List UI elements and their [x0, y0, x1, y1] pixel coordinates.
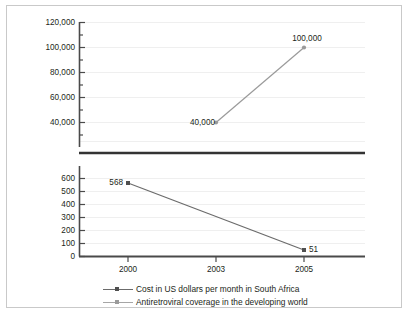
data-point-cost-2005 — [302, 248, 306, 252]
legend-swatch-coverage — [103, 297, 133, 308]
upper-panel-major-ticks — [80, 23, 86, 123]
ytick-label-500: 500 — [7, 187, 75, 196]
legend-swatch-cost — [103, 284, 133, 295]
ytick-label-400: 400 — [7, 200, 75, 209]
series-line-cost — [128, 183, 304, 250]
ytick-label-60000: 60,000 — [7, 93, 75, 102]
xtick-label-2003: 2003 — [192, 265, 240, 274]
figure-caption — [6, 313, 405, 325]
xtick-label-2005: 2005 — [280, 265, 328, 274]
data-point-cost-2000 — [126, 181, 130, 185]
series-line-coverage — [216, 48, 304, 123]
ytick-label-0: 0 — [7, 252, 75, 261]
figure: 120,000 100,000 80,000 60,000 40,000 600… — [0, 0, 411, 325]
ytick-label-600: 600 — [7, 174, 75, 183]
legend-item-coverage[interactable]: Antiretroviral coverage in the developin… — [103, 296, 393, 309]
ytick-label-120000: 120,000 — [7, 18, 75, 27]
data-label-coverage-2005: 100,000 — [284, 34, 330, 43]
data-point-coverage-2005 — [302, 45, 306, 49]
legend-label-cost: Cost in US dollars per month in South Af… — [133, 284, 299, 295]
ytick-label-200: 200 — [7, 226, 75, 235]
chart-frame: 120,000 100,000 80,000 60,000 40,000 600… — [6, 5, 402, 308]
lower-panel-gridlines — [80, 179, 366, 244]
ytick-label-100: 100 — [7, 239, 75, 248]
xtick-label-2000: 2000 — [104, 265, 152, 274]
data-label-cost-2005: 51 — [309, 245, 329, 254]
lower-panel-ticks — [80, 179, 86, 257]
legend-label-coverage: Antiretroviral coverage in the developin… — [133, 297, 308, 308]
data-label-coverage-2003: 40,000 — [181, 118, 215, 127]
data-label-cost-2000: 568 — [97, 178, 123, 187]
ytick-label-300: 300 — [7, 213, 75, 222]
ytick-label-80000: 80,000 — [7, 68, 75, 77]
chart-legend: Cost in US dollars per month in South Af… — [103, 283, 393, 309]
legend-item-cost[interactable]: Cost in US dollars per month in South Af… — [103, 283, 393, 296]
ytick-label-40000: 40,000 — [7, 118, 75, 127]
ytick-label-100000: 100,000 — [7, 43, 75, 52]
